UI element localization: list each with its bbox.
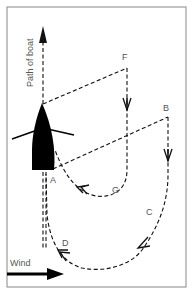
label-d: D xyxy=(62,238,69,248)
label-f: F xyxy=(122,52,128,62)
label-a: A xyxy=(50,175,56,185)
wind-label: Wind xyxy=(10,258,31,268)
manoeuvre-diagram: Path of boat F B A G C D Wind xyxy=(0,0,193,297)
label-b: B xyxy=(163,103,169,113)
label-g: G xyxy=(112,185,119,195)
label-c: C xyxy=(146,207,153,217)
path-of-boat-label: Path of boat xyxy=(25,38,35,87)
